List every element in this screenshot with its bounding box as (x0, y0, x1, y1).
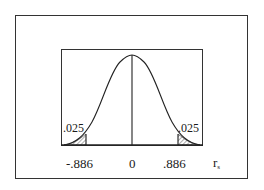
left-tail-area-label: .025 (63, 122, 84, 134)
right-tail-area-label: .025 (178, 122, 199, 134)
x-tick-positive-critical: .886 (163, 157, 186, 170)
x-axis-label: rs (213, 157, 220, 173)
axis-var-subscript: s (217, 163, 220, 171)
x-tick-negative-critical: -.886 (66, 157, 93, 170)
x-tick-zero: 0 (129, 157, 136, 170)
